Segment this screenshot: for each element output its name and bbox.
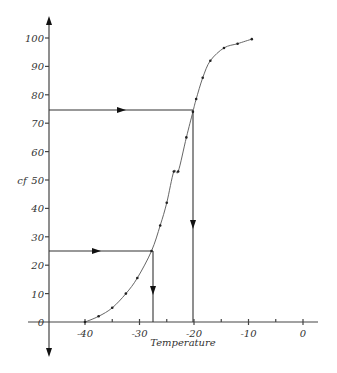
data-point [195,98,198,101]
guide-lines [49,107,196,322]
y-axis-bottom-arrow-icon [46,348,52,357]
y-tick-label: 30 [31,232,44,243]
y-tick-label: 0 [38,317,45,328]
right-arrow-icon [92,248,101,254]
data-point [201,76,204,79]
data-point [236,42,239,45]
data-point [209,59,212,62]
data-point [185,136,188,139]
x-tick-label: 0 [300,328,307,339]
data-point [97,315,100,318]
data-point [250,38,253,41]
y-tick-label: 50 [31,175,44,186]
data-point [150,250,153,253]
x-axis-label: Temperature [150,337,216,348]
y-tick-label: 10 [31,289,44,300]
x-tick-label: -40 [77,328,94,339]
y-tick-label: 90 [31,61,44,72]
y-tick-label: 80 [31,90,44,101]
data-point [111,307,114,310]
y-tick-label: 70 [31,118,44,129]
data-points [84,38,253,323]
data-point [223,47,226,50]
cf-temperature-chart: -40-30-20-100 0102030405060708090100 Tem… [0,0,337,373]
right-arrow-icon [117,107,126,113]
data-point [136,277,139,280]
data-point [159,224,162,227]
cf-curve [85,39,252,322]
y-tick-label: 20 [30,260,44,271]
y-axis-top-arrow-icon [46,16,52,25]
axes [28,16,318,357]
down-arrow-icon [150,286,156,295]
y-axis-label: cf [17,175,29,186]
y-tick-label: 40 [30,203,44,214]
data-point [192,111,195,114]
x-tick-label: -10 [240,328,257,339]
data-point [125,292,128,295]
data-point [84,321,87,324]
y-tick-label: 60 [31,147,44,158]
x-tick-label: -30 [131,328,148,339]
y-tick-label: 100 [25,33,45,44]
data-point [177,170,180,173]
down-arrow-icon [190,220,196,229]
data-point [173,170,176,173]
data-point [165,201,168,204]
y-axis-ticks: 0102030405060708090100 [25,33,49,328]
